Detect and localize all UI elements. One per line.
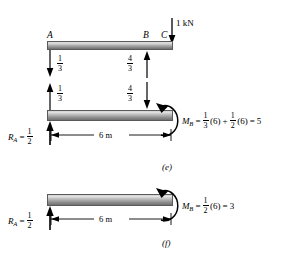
moment-term-1-factor: (6) <box>209 201 221 211</box>
reaction-value-b-top: 4 3 <box>127 55 133 73</box>
fraction-denominator: 2 <box>27 137 33 146</box>
panel-tag-e: (e) <box>162 163 172 172</box>
reaction-arrow-a-up-mid <box>45 82 57 110</box>
fraction-denominator: 2 <box>203 206 209 215</box>
dimension-label-6m-e: 6 m <box>99 131 112 140</box>
reaction-arrow-b-up-top <box>142 50 154 78</box>
panel-tag-f: (f) <box>162 239 171 248</box>
fraction-numerator: 1 <box>27 128 33 138</box>
moment-term-1-fraction: 1 2 <box>203 197 209 215</box>
moment-equation-e: MB = 1 3 (6) + 1 2 (6) = 5 <box>182 112 261 130</box>
reaction-value-a-top: 1 3 <box>57 55 63 73</box>
fraction-numerator: 4 <box>127 85 133 95</box>
moment-term-2-fraction: 1 2 <box>230 112 236 130</box>
reaction-value-fraction: 1 2 <box>27 128 33 146</box>
dimension-label-6m-f: 6 m <box>99 215 112 224</box>
moment-term-2-factor: (6) <box>236 116 248 126</box>
fraction-denominator: 2 <box>230 121 236 130</box>
fraction-numerator: 4 <box>127 55 133 65</box>
moment-result: 3 <box>230 201 235 211</box>
beam-bar-top-e <box>47 41 173 50</box>
applied-load-label: 1 kN <box>176 19 194 28</box>
fraction-denominator: 3 <box>203 121 209 130</box>
reaction-arrow-a-down-top <box>45 50 57 78</box>
moment-term-1-factor: (6) <box>209 116 221 126</box>
fraction-numerator: 1 <box>27 212 33 222</box>
equals-sign: = <box>193 116 202 126</box>
reaction-value-b-mid: 4 3 <box>127 85 133 103</box>
reaction-subscript: A <box>13 136 17 143</box>
fraction-denominator: 3 <box>57 94 63 103</box>
point-label-a: A <box>47 31 53 41</box>
result-equals-sign: = <box>248 116 257 126</box>
fraction-numerator: 1 <box>57 85 63 95</box>
dimension-line-6m-f <box>50 210 174 226</box>
fraction-numerator: 1 <box>203 112 209 122</box>
support-reaction-label-e: RA = 1 2 <box>8 128 33 146</box>
fraction-numerator: 1 <box>57 55 63 65</box>
moment-subscript: B <box>189 205 193 212</box>
moment-term-2-operator: + <box>221 116 230 126</box>
equals-sign: = <box>17 216 26 226</box>
fraction-numerator: 1 <box>203 197 209 207</box>
moment-term-1-fraction: 1 3 <box>203 112 209 130</box>
support-reaction-label-f: RA = 1 2 <box>8 212 33 230</box>
reaction-subscript: A <box>13 220 17 227</box>
fraction-numerator: 1 <box>230 112 236 122</box>
reaction-value-fraction: 1 2 <box>27 212 33 230</box>
moment-result: 5 <box>257 116 262 126</box>
moment-subscript: B <box>189 120 193 127</box>
fraction-denominator: 2 <box>27 221 33 230</box>
dimension-line-6m-e <box>50 126 174 142</box>
reaction-value-a-mid: 1 3 <box>57 85 63 103</box>
beam-diagram-figure: A B C 1 kN 1 3 4 3 1 3 <box>0 0 291 258</box>
point-label-b: B <box>143 31 149 41</box>
result-equals-sign: = <box>221 201 230 211</box>
fraction-denominator: 3 <box>57 64 63 73</box>
moment-equation-f: MB = 1 2 (6) = 3 <box>182 197 234 215</box>
equals-sign: = <box>193 201 202 211</box>
equals-sign: = <box>17 132 26 142</box>
point-label-c: C <box>161 31 167 41</box>
fraction-denominator: 3 <box>127 94 133 103</box>
fraction-denominator: 3 <box>127 64 133 73</box>
